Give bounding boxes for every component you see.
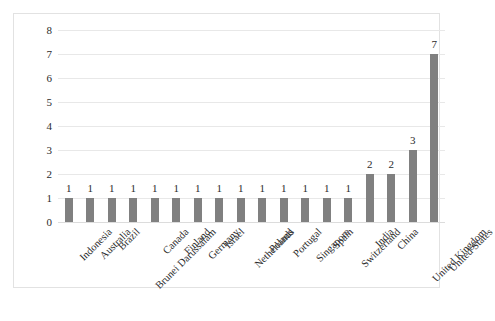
chart-container: 012345678 111111111111112237 IndonesiaAu… — [13, 13, 440, 288]
bar[interactable] — [151, 198, 159, 222]
bar-value-label: 1 — [88, 183, 94, 194]
bar[interactable] — [387, 174, 395, 222]
bar-slot: 1 — [316, 30, 338, 222]
bar-slot: 1 — [101, 30, 123, 222]
bar[interactable] — [215, 198, 223, 222]
plot-area: 012345678 111111111111112237 — [58, 30, 445, 222]
bar-slot: 1 — [295, 30, 317, 222]
bar-slot: 1 — [230, 30, 252, 222]
bar-value-label: 2 — [389, 159, 395, 170]
bar-value-label: 1 — [109, 183, 115, 194]
bar-value-label: 1 — [152, 183, 158, 194]
bar-value-label: 1 — [195, 183, 201, 194]
bar-value-label: 1 — [131, 183, 137, 194]
bar[interactable] — [258, 198, 266, 222]
bar[interactable] — [129, 198, 137, 222]
bar[interactable] — [366, 174, 374, 222]
y-axis-tick-label: 4 — [47, 121, 53, 132]
bar-value-label: 1 — [238, 183, 244, 194]
bar[interactable] — [194, 198, 202, 222]
bar-value-label: 1 — [324, 183, 330, 194]
gridline-0 — [58, 222, 445, 223]
bar-value-label: 1 — [303, 183, 309, 194]
bar-slot: 1 — [80, 30, 102, 222]
bar-value-label: 1 — [66, 183, 72, 194]
y-axis-tick-label: 1 — [47, 193, 53, 204]
bar-slot: 3 — [402, 30, 424, 222]
bar-slot: 1 — [123, 30, 145, 222]
bar-slot: 1 — [338, 30, 360, 222]
bar[interactable] — [430, 54, 438, 222]
x-axis-label-text: Israel — [223, 227, 247, 251]
bar-value-label: 1 — [260, 183, 266, 194]
y-axis-tick-label: 8 — [47, 25, 53, 36]
bar-value-label: 1 — [346, 183, 352, 194]
bar[interactable] — [172, 198, 180, 222]
bar-slot: 2 — [381, 30, 403, 222]
bar-value-label: 2 — [367, 159, 373, 170]
bar-slot: 1 — [187, 30, 209, 222]
y-axis-tick-label: 0 — [47, 217, 53, 228]
bar-slot: 1 — [209, 30, 231, 222]
x-axis-label-text: Spain — [331, 227, 355, 251]
bar[interactable] — [409, 150, 417, 222]
y-axis-tick-label: 2 — [47, 169, 53, 180]
y-axis-tick-label: 6 — [47, 73, 53, 84]
bar[interactable] — [65, 198, 73, 222]
bar[interactable] — [301, 198, 309, 222]
bar-slot: 1 — [166, 30, 188, 222]
y-axis-tick-label: 7 — [47, 49, 53, 60]
bar[interactable] — [86, 198, 94, 222]
bar-value-label: 1 — [217, 183, 223, 194]
bar-slot: 1 — [144, 30, 166, 222]
y-axis-tick-label: 5 — [47, 97, 53, 108]
bar-slot: 1 — [273, 30, 295, 222]
bar[interactable] — [344, 198, 352, 222]
bars-group: 111111111111112237 — [58, 30, 445, 222]
x-axis-category-labels: IndonesiaAustraliaBrazilBrunei Darussala… — [58, 224, 445, 302]
bar-slot: 2 — [359, 30, 381, 222]
bar-value-label: 3 — [410, 135, 416, 146]
x-axis-category-label: Israel — [223, 227, 247, 251]
x-axis-category-label: Spain — [331, 227, 355, 251]
bar-value-label: 1 — [174, 183, 180, 194]
bar-slot: 7 — [424, 30, 446, 222]
bar-slot: 1 — [252, 30, 274, 222]
bar[interactable] — [108, 198, 116, 222]
bar[interactable] — [280, 198, 288, 222]
bar-value-label: 1 — [281, 183, 287, 194]
bar[interactable] — [237, 198, 245, 222]
bar[interactable] — [323, 198, 331, 222]
y-axis-tick-label: 3 — [47, 145, 53, 156]
bar-value-label: 7 — [432, 39, 438, 50]
bar-slot: 1 — [58, 30, 80, 222]
